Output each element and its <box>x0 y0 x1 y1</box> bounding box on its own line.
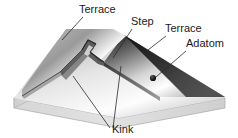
label-terrace-right: Terrace <box>165 22 202 34</box>
label-step: Step <box>131 15 154 27</box>
label-terrace-left: Terrace <box>79 3 116 15</box>
label-kink: Kink <box>112 123 134 135</box>
label-adatom: Adatom <box>186 37 224 49</box>
crystal-surface-diagram: Terrace Step Terrace Adatom Kink <box>0 0 238 138</box>
figure-canvas: Terrace Step Terrace Adatom Kink <box>0 0 238 138</box>
terrace-right-leader-line <box>148 36 166 50</box>
adatom-marker <box>150 75 156 81</box>
